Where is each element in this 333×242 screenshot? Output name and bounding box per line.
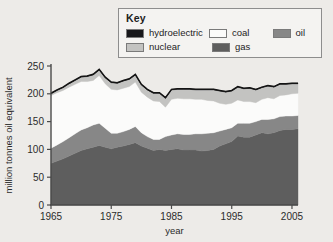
legend-item-label: hydroelectric <box>149 28 203 38</box>
legend-item-label: gas <box>235 42 250 52</box>
y-tick-label: 250 <box>27 61 44 72</box>
nuclear-swatch <box>126 43 144 52</box>
legend-item-label: coal <box>232 28 249 38</box>
chart-area: 19651975198519952005 050100150200250 yea… <box>0 58 333 242</box>
legend-item-label: nuclear <box>149 42 180 52</box>
x-tick-label: 2005 <box>281 211 304 222</box>
y-tick-label: 0 <box>38 200 44 211</box>
legend-rows: hydroelectric coal oil nuclear <box>126 26 315 54</box>
x-tick-label: 1965 <box>40 211 63 222</box>
chart-legend: Key hydroelectric coal oil <box>118 8 322 58</box>
legend-title: Key <box>126 13 315 24</box>
legend-row: hydroelectric coal oil <box>126 26 315 40</box>
legend-item-hydroelectric[interactable]: hydroelectric <box>126 28 209 38</box>
hydroelectric-swatch <box>126 29 144 38</box>
x-tick-label: 1975 <box>100 211 123 222</box>
legend-item-gas[interactable]: gas <box>212 42 278 52</box>
x-tick-label: 1995 <box>221 211 244 222</box>
coal-swatch <box>209 29 227 38</box>
y-axis-title: million tonnes oil equivalent <box>3 77 14 194</box>
oil-swatch <box>273 29 291 38</box>
chart-page: Key hydroelectric coal oil <box>0 0 333 242</box>
y-tick-label: 200 <box>27 88 44 99</box>
legend-row: nuclear gas <box>126 40 315 54</box>
stacked-area-chart: 19651975198519952005 050100150200250 yea… <box>0 58 333 242</box>
y-tick-label: 50 <box>33 172 45 183</box>
x-tick-labels: 19651975198519952005 <box>40 211 304 222</box>
legend-item-label: oil <box>296 28 306 38</box>
x-tick-label: 1985 <box>160 211 183 222</box>
y-tick-labels: 050100150200250 <box>27 61 44 211</box>
legend-item-coal[interactable]: coal <box>209 28 273 38</box>
legend-item-nuclear[interactable]: nuclear <box>126 42 212 52</box>
y-tick-label: 100 <box>27 144 44 155</box>
x-axis-title: year <box>165 225 183 236</box>
gas-swatch <box>212 43 230 52</box>
y-tick-label: 150 <box>27 116 44 127</box>
legend-item-oil[interactable]: oil <box>273 28 315 38</box>
